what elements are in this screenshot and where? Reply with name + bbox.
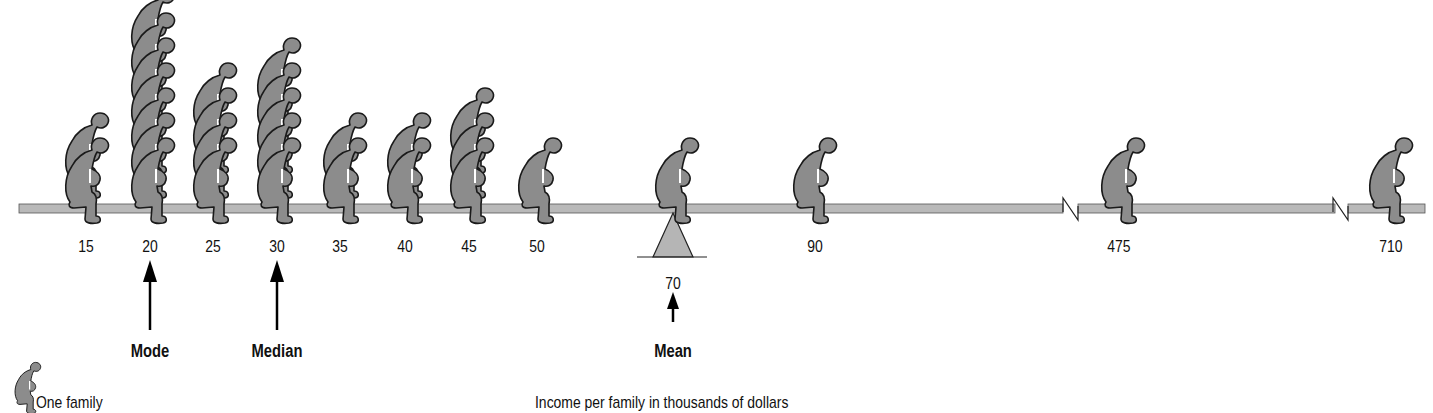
tick-label-45: 45	[461, 238, 477, 255]
median-arrow-icon	[270, 260, 284, 330]
mode-label: Mode	[131, 342, 170, 360]
mean-median-mode-seesaw-diagram: 15 20 25 30 35 40 45 50 90 475 710 70 Mo…	[0, 0, 1433, 413]
fulcrum-icon	[637, 213, 707, 257]
figure-stack-25	[194, 63, 237, 223]
tick-label-710: 710	[1379, 238, 1402, 255]
figure-stack-30	[258, 38, 301, 223]
mean-label: Mean	[654, 342, 692, 360]
diagram-canvas	[0, 0, 1433, 413]
tick-label-25: 25	[205, 238, 221, 255]
mean-value-label: 70	[665, 275, 681, 292]
figure-stack-20	[132, 0, 175, 223]
mean-arrow-icon	[667, 292, 679, 322]
tick-label-50: 50	[529, 238, 545, 255]
legend-label: One family	[36, 394, 103, 411]
median-label: Median	[252, 342, 303, 360]
tick-label-35: 35	[332, 238, 348, 255]
tick-label-15: 15	[78, 238, 94, 255]
tick-label-40: 40	[397, 238, 413, 255]
figure-stack-45	[451, 88, 494, 223]
tick-label-30: 30	[269, 238, 285, 255]
family-figure-stacks	[66, 0, 1413, 223]
beam	[19, 204, 1425, 213]
x-axis-title: Income per family in thousands of dollar…	[535, 394, 788, 411]
tick-label-20: 20	[142, 238, 158, 255]
tick-label-90: 90	[807, 238, 823, 255]
tick-label-475: 475	[1107, 238, 1130, 255]
mode-arrow-icon	[143, 260, 157, 330]
